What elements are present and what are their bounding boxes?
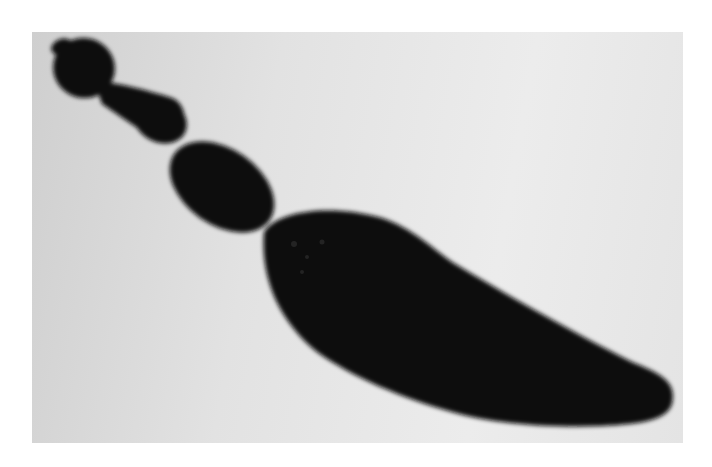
micrograph-photo [32, 32, 683, 443]
tapeworm-silhouette [32, 32, 683, 443]
gravid-segment [264, 210, 673, 426]
